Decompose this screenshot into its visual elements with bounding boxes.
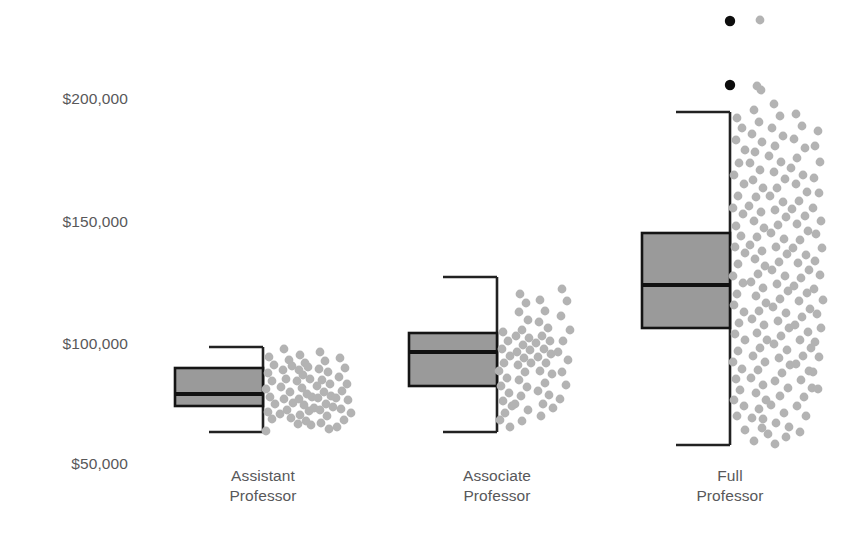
jitter-points-full-professor: [729, 16, 828, 449]
box-iqr: [642, 233, 730, 328]
boxplot-assistant-professor: [175, 347, 263, 432]
outlier-point: [725, 80, 735, 90]
outlier-point: [725, 16, 735, 26]
boxplot-full-professor: [642, 112, 730, 445]
jitter-points-associate-professor: [495, 285, 575, 432]
box-iqr: [409, 333, 497, 386]
box-iqr: [175, 368, 263, 406]
plot-area: $200,000 $150,000 $100,000 $50,000 Assis…: [0, 0, 852, 536]
boxplot-associate-professor: [409, 277, 497, 432]
outlier-points-full-professor: [725, 16, 735, 90]
salary-boxplot-chart: $200,000 $150,000 $100,000 $50,000 Assis…: [0, 0, 852, 536]
chart-svg-layer: [0, 0, 852, 536]
jitter-points-assistant-professor: [262, 345, 356, 436]
